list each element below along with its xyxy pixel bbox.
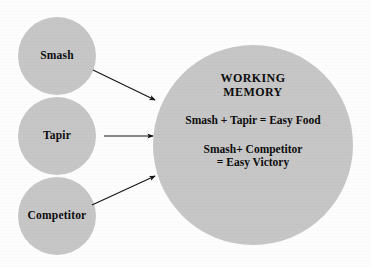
arrow-layer xyxy=(0,0,371,267)
arrow-competitor-to-working-memory xyxy=(92,176,155,205)
diagram-canvas: Smash Tapir Competitor WORKING MEMORY Sm… xyxy=(0,0,371,267)
arrow-smash-to-working-memory xyxy=(93,70,155,100)
